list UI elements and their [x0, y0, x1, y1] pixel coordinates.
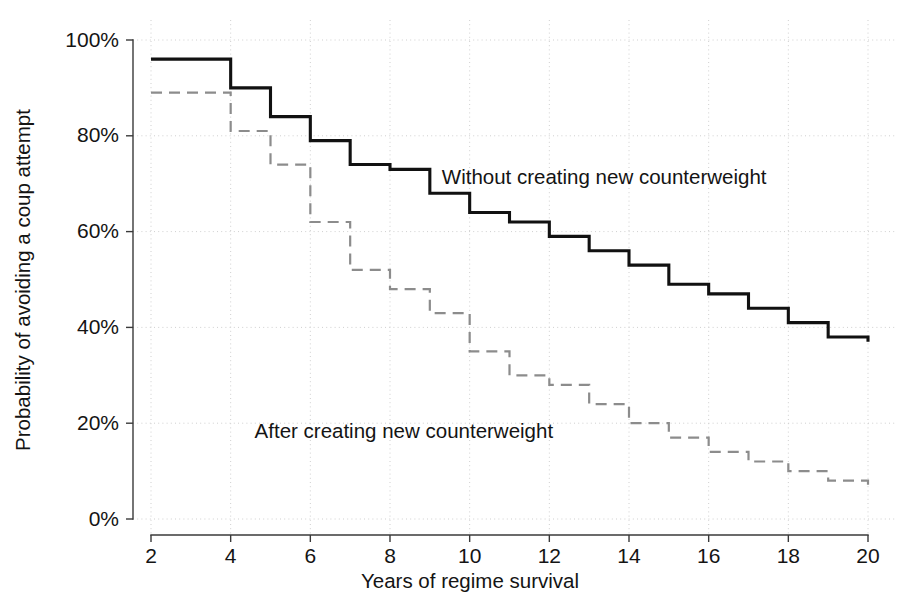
- x-axis-ticks: 2468101214161820: [145, 535, 880, 567]
- x-tick-label: 18: [777, 544, 800, 567]
- y-tick-label: 60%: [77, 219, 119, 242]
- survival-curve-chart: 0%20%40%60%80%100% 2468101214161820 With…: [0, 0, 903, 615]
- y-tick-label: 40%: [77, 315, 119, 338]
- y-axis-title: Probability of avoiding a coup attempt: [11, 109, 34, 451]
- after-counterweight-label: After creating new counterweight: [255, 419, 554, 442]
- x-tick-label: 2: [145, 544, 157, 567]
- y-tick-label: 0%: [89, 507, 119, 530]
- x-axis-title: Years of regime survival: [361, 569, 579, 592]
- x-tick-label: 10: [458, 544, 481, 567]
- x-tick-label: 8: [384, 544, 396, 567]
- x-tick-label: 20: [856, 544, 879, 567]
- chart-container: 0%20%40%60%80%100% 2468101214161820 With…: [0, 0, 903, 615]
- x-tick-label: 6: [304, 544, 316, 567]
- x-tick-label: 14: [617, 544, 641, 567]
- y-tick-label: 20%: [77, 411, 119, 434]
- without-counterweight-label: Without creating new counterweight: [442, 165, 767, 188]
- series-without-counterweight: [151, 59, 868, 342]
- x-tick-label: 12: [538, 544, 561, 567]
- annotations-layer: Without creating new counterweight After…: [255, 165, 767, 442]
- y-axis-ticks: 0%20%40%60%80%100%: [65, 28, 133, 530]
- x-tick-label: 4: [225, 544, 237, 567]
- y-tick-label: 80%: [77, 123, 119, 146]
- gridlines: [133, 20, 895, 535]
- x-tick-label: 16: [697, 544, 720, 567]
- y-tick-label: 100%: [65, 28, 119, 51]
